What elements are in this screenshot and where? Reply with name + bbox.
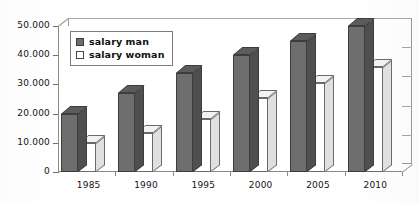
bar-side-face [307, 34, 316, 172]
x-axis-tick-2005 [345, 172, 346, 176]
bar-front-face [290, 41, 307, 172]
x-axis-tick-2010 [402, 172, 403, 176]
bar-side-face [153, 126, 162, 172]
bar-side-face [268, 90, 277, 171]
x-axis-label-2010: 2010 [355, 180, 395, 190]
x-axis-tick-1995 [230, 172, 231, 176]
y-axis-label-50000: 50.000 [0, 20, 50, 30]
x-axis-label-1990: 1990 [126, 180, 166, 190]
plot-depth-edge-bottom-right [402, 164, 413, 173]
bar-side-face [250, 48, 259, 172]
x-axis-tick-1985 [115, 172, 116, 176]
y-axis-label-30000: 30.000 [0, 78, 50, 88]
bar-front-face [348, 26, 365, 172]
y-axis-label-0: 0 [0, 166, 50, 176]
bar-salary-man-1990 [118, 93, 135, 172]
y-axis-label-20000: 20.000 [0, 108, 50, 118]
bar-side-face [325, 76, 334, 172]
legend-item-salary-man: salary man [76, 35, 165, 48]
bar-side-face [78, 107, 87, 172]
y-axis-label-10000: 10.000 [0, 137, 50, 147]
x-axis-tick-2000 [287, 172, 288, 176]
x-axis-label-2000: 2000 [241, 180, 281, 190]
bar-salary-man-2010 [348, 26, 365, 172]
y-axis-label-40000: 40.000 [0, 49, 50, 59]
legend-label-salary-woman: salary woman [89, 49, 165, 60]
x-axis-tick-1990 [173, 172, 174, 176]
salary-comparison-bar-chart: 010.00020.00030.00040.00050.000 20102005… [0, 0, 419, 203]
bar-front-face [233, 55, 250, 172]
y-axis-tick-0 [53, 172, 59, 173]
legend-label-salary-man: salary man [89, 36, 149, 47]
x-axis-label-1985: 1985 [69, 180, 109, 190]
bar-side-face [135, 86, 144, 172]
bar-side-face [193, 66, 202, 172]
x-axis-label-2005: 2005 [298, 180, 338, 190]
bar-side-face [211, 112, 220, 172]
chart-legend: salary man salary woman [70, 31, 173, 66]
legend-swatch-filled-gray-square-icon [76, 38, 84, 46]
bar-front-face [118, 93, 135, 172]
bar-salary-man-2000 [233, 55, 250, 172]
bar-side-face [383, 60, 392, 172]
bar-salary-man-1995 [176, 73, 193, 172]
bar-front-face [176, 73, 193, 172]
bar-side-face [365, 19, 374, 172]
legend-item-salary-woman: salary woman [76, 48, 165, 61]
legend-swatch-empty-white-square-icon [76, 51, 84, 59]
bar-salary-man-1985 [61, 114, 78, 172]
bar-front-face [61, 114, 78, 172]
x-axis-label-1995: 1995 [183, 180, 223, 190]
bar-salary-man-2005 [290, 41, 307, 172]
